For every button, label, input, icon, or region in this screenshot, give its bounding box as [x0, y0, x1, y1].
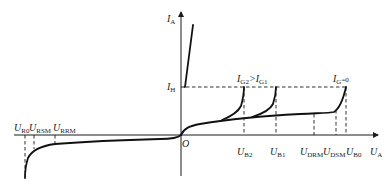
ursm-label: URSM [29, 122, 52, 135]
holding-current-label: IH [166, 81, 175, 94]
x-axis-label: UA [370, 146, 382, 159]
ub2-label: UB2 [237, 146, 253, 159]
forward-blocking-curve-ig0 [181, 87, 346, 135]
on-state-curve [185, 25, 193, 87]
ub0-label: UB0 [346, 146, 362, 159]
reverse-blocking-curve [25, 135, 181, 178]
forward-curve-ig1 [252, 87, 276, 117]
origin-label: O [182, 138, 189, 149]
ur0-label: UR0 [14, 122, 30, 135]
gate-current-relation-label: IG2>IG1 [236, 73, 268, 86]
y-axis-label: IA [166, 13, 175, 26]
ub1-label: UB1 [270, 146, 286, 159]
gate-current-zero-label: IG=0 [332, 73, 349, 86]
forward-curve-ig2 [222, 87, 244, 120]
thyristor-iv-characteristic-diagram: IA UA O IH IG2>IG1 IG=0 UB2 UB1 UDRM UDS… [0, 0, 388, 187]
udsm-label: UDSM [323, 146, 346, 159]
urrm-label: URRM [53, 122, 77, 135]
udrm-label: UDRM [300, 146, 324, 159]
